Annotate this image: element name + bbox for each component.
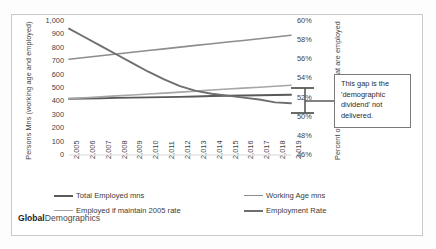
y-axis-left-tick-label: 900 <box>32 29 64 38</box>
y-axis-left-tick-label: 800 <box>32 43 64 52</box>
legend-color-swatch <box>244 210 263 212</box>
x-axis-tick-label: 2,008 <box>120 141 129 160</box>
y-axis-left-tick-label: 400 <box>32 96 64 105</box>
y-axis-right-tick-label: 60% <box>297 16 329 25</box>
legend-item-label: Employment Rate <box>266 207 326 215</box>
x-axis-tick-label: 2,007 <box>104 141 113 160</box>
legend-item[interactable]: Working Age mns <box>244 192 325 200</box>
y-axis-right-tick-label: 58% <box>297 35 329 44</box>
legend-color-swatch <box>244 195 263 196</box>
y-axis-left-tick-label: 500 <box>32 83 64 92</box>
x-axis-tick-label: 2,011 <box>167 141 176 159</box>
brand-logo: GlobalDemographics <box>18 213 100 223</box>
x-axis-tick-label: 2,017 <box>262 141 271 160</box>
y-axis-right-tick-label: 52% <box>297 93 329 102</box>
legend-color-swatch <box>54 195 73 197</box>
y-axis-left-tick-label: 600 <box>32 70 64 79</box>
chart-legend: Total Employed mnsWorking Age mnsEmploye… <box>54 192 404 222</box>
x-axis-tick-label: 2,009 <box>135 141 144 160</box>
brand-normal-text: Demographics <box>45 213 100 223</box>
y-axis-right-tick-label: 56% <box>297 54 329 63</box>
y-axis-left-tick-label: 1,000 <box>32 16 64 25</box>
x-axis-tick-label: 2,012 <box>183 141 192 160</box>
x-axis-tick-label: 2,016 <box>246 141 255 160</box>
y-axis-left-tick-label: 300 <box>32 110 64 119</box>
x-axis-tick-label: 2,019 <box>294 141 303 160</box>
legend-item[interactable]: Employment Rate <box>244 207 326 215</box>
y-axis-right-tick-label: 48% <box>297 131 329 140</box>
y-axis-left-tick-label: 0 <box>32 150 64 159</box>
y-axis-left-tick-label: 200 <box>32 123 64 132</box>
x-axis-tick-label: 2,018 <box>278 141 287 160</box>
brand-bold-text: Global <box>18 213 45 223</box>
y-axis-right-tick-label: 54% <box>297 73 329 82</box>
annotation-callout-box: This gap is the 'demographic dividend' n… <box>334 74 411 128</box>
y-axis-left-tick-label: 700 <box>32 56 64 65</box>
x-axis-tick-label: 2,010 <box>151 141 160 160</box>
legend-item-label: Working Age mns <box>266 192 325 200</box>
y-axis-left-tick-label: 100 <box>32 137 64 146</box>
legend-item[interactable]: Total Employed mns <box>54 192 144 200</box>
x-axis-tick-label: 2,013 <box>199 141 208 160</box>
x-axis-tick-label: 2,005 <box>72 141 81 160</box>
chart-figure: Persons Mns (working age and employed) P… <box>0 0 436 249</box>
legend-color-swatch <box>54 210 73 211</box>
legend-item-label: Total Employed mns <box>76 192 144 200</box>
y-axis-right-tick-label: 50% <box>297 112 329 121</box>
x-axis-tick-label: 2,015 <box>231 141 240 160</box>
x-axis-tick-label: 2,006 <box>88 141 97 160</box>
x-axis-tick-label: 2,014 <box>215 141 224 160</box>
annotation-callout-text: This gap is the 'demographic dividend' n… <box>341 79 389 120</box>
